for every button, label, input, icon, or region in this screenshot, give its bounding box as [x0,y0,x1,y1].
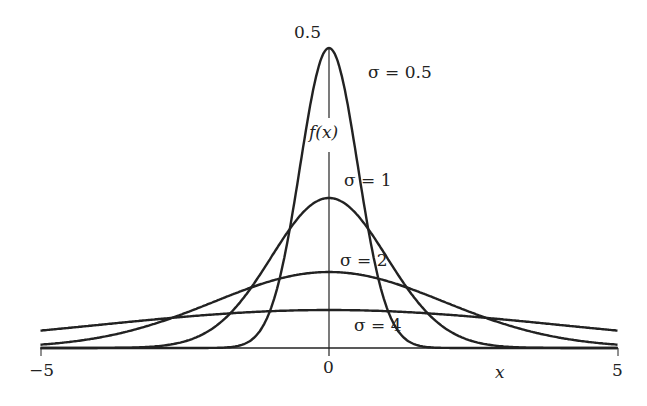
x-axis-label: x [495,362,505,382]
label-sigma-2: σ = 2 [340,250,387,270]
plot-area [0,0,647,406]
x-tick-label-max: 5 [612,360,623,380]
x-tick-label-min: −5 [29,360,54,380]
label-sigma-0.5: σ = 0.5 [368,62,432,82]
label-sigma-4: σ = 4 [354,315,401,335]
x-tick-label-zero: 0 [323,357,334,377]
y-axis-label: f(x) [309,122,338,142]
y-tick-label: 0.5 [294,22,321,42]
label-sigma-1: σ = 1 [344,170,391,190]
